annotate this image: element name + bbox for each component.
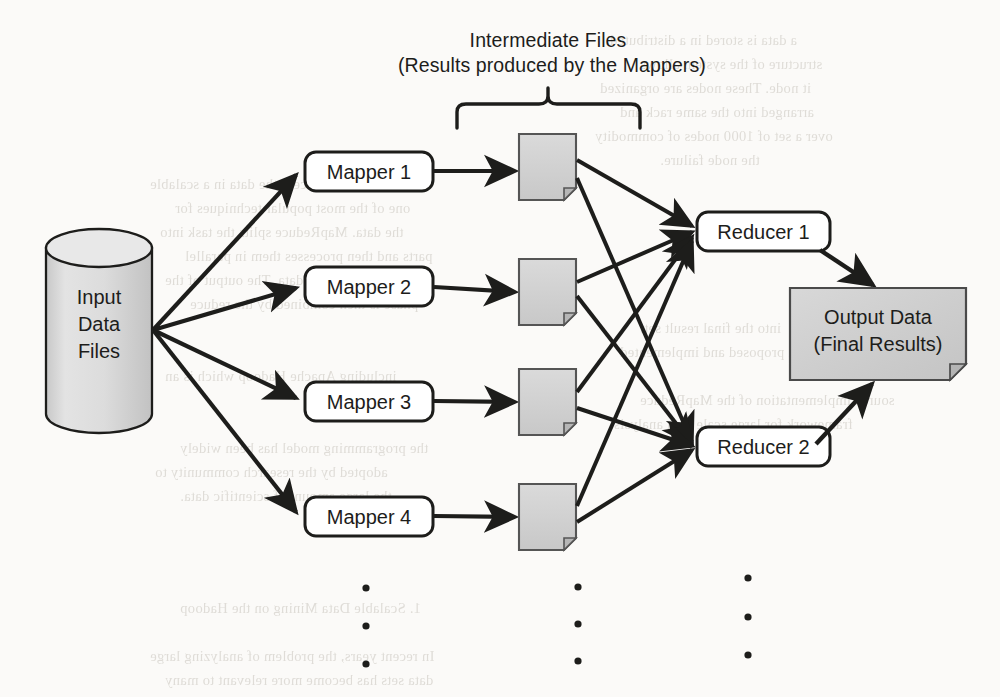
mapreduce-diagram-page: a data is stored in a distributed struct… (0, 0, 1000, 697)
output-label-line-2: (Final Results) (790, 331, 966, 358)
mapper-label-2[interactable]: Mapper 2 (305, 275, 433, 299)
intermediate-file-2 (519, 259, 576, 325)
edges-input-to-mappers (153, 175, 296, 512)
brace-intermediate-files (457, 88, 640, 128)
edges-mappers-to-files (434, 171, 515, 517)
edge-reducer-1-to-output (820, 250, 873, 285)
input-label-line-2: Data (46, 311, 152, 338)
input-data-files-label: Input Data Files (46, 284, 152, 365)
intermediate-file-shapes (519, 134, 576, 550)
mapper-nodes (305, 152, 433, 536)
edge-input-to-mapper-1 (153, 175, 296, 330)
output-data-label: Output Data (Final Results) (790, 304, 966, 358)
edge-input-to-mapper-4 (153, 330, 296, 512)
edge-mapper-4-to-file-4 (434, 516, 515, 517)
ellipsis-reducers (744, 574, 751, 658)
intermediate-file-4 (519, 484, 576, 550)
caption-line-2: (Results produced by the Mappers) (398, 53, 698, 78)
edge-mapper-3-to-file-3 (434, 401, 515, 402)
edge-file-4-to-reducer-1 (577, 241, 692, 506)
edge-file-4-to-reducer-2 (577, 450, 692, 522)
reducer-label-2[interactable]: Reducer 2 (697, 435, 830, 459)
mapper-label-1[interactable]: Mapper 1 (305, 160, 433, 184)
edges-files-to-reducers (577, 160, 692, 522)
edge-file-3-to-reducer-2 (577, 408, 692, 446)
edge-input-to-mapper-3 (153, 330, 296, 398)
output-label-line-1: Output Data (790, 304, 966, 331)
ellipsis-mappers (362, 584, 369, 667)
mapper-label-3[interactable]: Mapper 3 (305, 390, 433, 414)
intermediate-file-1 (519, 134, 576, 200)
mapper-label-4[interactable]: Mapper 4 (305, 505, 433, 529)
input-label-line-1: Input (46, 284, 152, 311)
intermediate-file-3 (519, 369, 576, 435)
ellipsis-files (574, 583, 581, 664)
intermediate-files-caption: Intermediate Files (Results produced by … (398, 28, 698, 78)
edge-mapper-2-to-file-2 (434, 287, 515, 292)
input-label-line-3: Files (46, 338, 152, 365)
caption-line-1: Intermediate Files (398, 28, 698, 53)
reducer-label-1[interactable]: Reducer 1 (697, 220, 830, 244)
